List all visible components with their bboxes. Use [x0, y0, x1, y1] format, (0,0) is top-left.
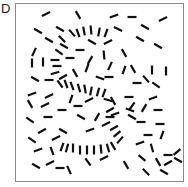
line-segment: [101, 145, 102, 154]
line-segment: [51, 72, 60, 74]
line-segment: [154, 44, 162, 49]
line-segment: [105, 29, 108, 37]
line-segment: [52, 136, 60, 140]
line-segment: [136, 37, 144, 42]
line-segment: [114, 27, 122, 31]
line-segment: [142, 104, 147, 112]
line-segment: [111, 113, 119, 116]
line-segment: [139, 155, 146, 161]
line-segment: [55, 49, 62, 54]
line-segment: [84, 85, 86, 94]
line-segment: [110, 126, 118, 131]
line-segment: [69, 30, 75, 37]
line-segment: [59, 36, 65, 42]
line-segment: [141, 25, 149, 30]
line-segment: [96, 77, 104, 80]
line-segment: [26, 117, 33, 122]
line-segment: [100, 156, 108, 160]
line-segment: [156, 158, 161, 166]
line-segment: [86, 129, 94, 132]
line-segment: [85, 98, 93, 102]
line-segment: [32, 164, 40, 169]
line-segment: [103, 89, 106, 97]
line-segment: [95, 113, 100, 121]
line-segment: [34, 29, 42, 34]
line-segment: [90, 87, 92, 96]
line-segment: [59, 129, 67, 134]
line-segment: [60, 44, 68, 49]
line-segment: [122, 49, 127, 57]
line-segment: [77, 29, 80, 37]
line-segment: [106, 108, 114, 113]
line-segment: [88, 56, 93, 64]
line-segment: [70, 95, 73, 103]
line-segment: [91, 26, 92, 35]
line-segment: [31, 77, 39, 82]
line-segment: [71, 82, 74, 90]
line-segment: [38, 129, 46, 134]
line-segment: [78, 84, 80, 93]
contour-stimulus-field: [0, 0, 188, 187]
line-segment: [85, 158, 90, 165]
line-segment: [149, 97, 157, 100]
line-segment: [128, 115, 136, 120]
line-segment: [66, 144, 68, 153]
line-segment: [151, 144, 153, 153]
line-segment: [104, 51, 105, 60]
line-segment: [45, 38, 53, 43]
line-segment: [28, 100, 33, 108]
line-segment: [143, 76, 149, 83]
line-segment: [28, 137, 35, 142]
line-segment: [46, 161, 54, 165]
line-segment: [110, 15, 118, 18]
line-segment: [124, 161, 129, 169]
line-segment: [28, 93, 36, 96]
line-segment: [164, 161, 172, 166]
line-segment: [108, 62, 112, 70]
line-segment: [174, 158, 182, 163]
line-segment: [102, 122, 110, 126]
line-segment: [126, 109, 134, 112]
line-segment: [97, 88, 99, 97]
line-segment: [32, 48, 36, 56]
line-segment: [129, 102, 134, 109]
line-segment: [117, 137, 123, 144]
line-segment: [111, 142, 116, 150]
line-segment: [160, 170, 168, 175]
line-segment: [83, 27, 85, 36]
line-segment: [41, 103, 49, 107]
line-segment: [161, 131, 164, 139]
line-segment: [76, 11, 81, 19]
line-segment: [65, 80, 68, 88]
line-segment: [174, 149, 181, 155]
line-segment: [131, 65, 136, 73]
line-segment: [86, 64, 89, 72]
line-segment: [42, 12, 50, 16]
line-segment: [98, 28, 100, 37]
line-segment: [123, 66, 126, 74]
line-segment: [73, 69, 78, 77]
line-segment: [114, 131, 121, 137]
line-segment: [77, 115, 85, 120]
line-segment: [159, 17, 167, 21]
line-segment: [104, 40, 112, 44]
line-segment: [57, 80, 62, 87]
line-segment: [61, 143, 64, 151]
line-segment: [107, 144, 109, 153]
line-segment: [143, 169, 149, 175]
line-segment: [45, 94, 53, 98]
line-segment: [56, 27, 64, 32]
line-segment: [34, 149, 42, 152]
line-segment: [51, 147, 54, 155]
line-segment: [59, 75, 67, 80]
line-segment: [152, 82, 159, 87]
line-segment: [67, 166, 71, 174]
line-segment: [136, 142, 144, 145]
line-segment: [88, 40, 96, 45]
